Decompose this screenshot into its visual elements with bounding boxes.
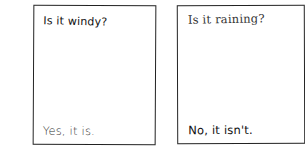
comic-panel-windy: Is it windy? Yes, it is.: [33, 5, 157, 146]
panel-answer: Yes, it is.: [43, 124, 95, 138]
comic-panel-raining: Is it raining? No, it isn't.: [177, 5, 305, 144]
panel-answer: No, it isn't.: [188, 123, 253, 137]
panel-question: Is it windy?: [43, 14, 107, 28]
panel-question: Is it raining?: [188, 11, 265, 27]
